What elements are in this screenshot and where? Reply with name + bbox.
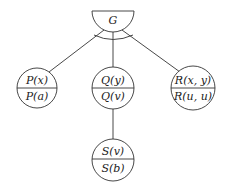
and-arc	[94, 35, 133, 40]
root-label: G	[109, 14, 118, 27]
node-q: Q(y) Q(v)	[92, 67, 134, 109]
node-q-bottom: Q(v)	[101, 90, 125, 103]
edge-g-p	[49, 30, 104, 72]
node-p-bottom: P(a)	[25, 90, 49, 103]
node-s-bottom: S(b)	[101, 162, 124, 175]
node-r-bottom: R(u, u)	[173, 90, 212, 103]
node-p-top: P(x)	[25, 74, 48, 87]
goal-tree-diagram: G P(x) P(a) Q(y) Q(v) R(x, y) R(u, u) S(…	[0, 0, 226, 189]
node-p: P(x) P(a)	[17, 68, 57, 108]
root-node-g: G	[92, 11, 134, 32]
node-s: S(v) S(b)	[92, 139, 134, 181]
node-s-top: S(v)	[102, 145, 124, 158]
node-q-top: Q(y)	[101, 74, 125, 87]
node-r: R(x, y) R(u, u)	[171, 66, 215, 110]
node-r-top: R(x, y)	[174, 74, 211, 87]
